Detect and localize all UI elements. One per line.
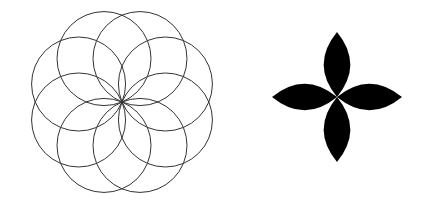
figure-canvas xyxy=(0,0,425,210)
rosette-circle xyxy=(118,37,212,131)
flower-petal xyxy=(337,84,402,111)
four-petal-flower xyxy=(272,32,402,162)
rosette-circle xyxy=(32,37,126,131)
flower-petal xyxy=(272,84,337,111)
circle-rosette xyxy=(32,12,213,193)
flower-petal xyxy=(324,32,351,97)
figure xyxy=(0,0,425,210)
rosette-circle xyxy=(57,12,151,106)
rosette-circle xyxy=(118,73,212,167)
rosette-circle xyxy=(32,73,126,167)
rosette-circle xyxy=(57,98,151,192)
rosette-circle xyxy=(93,98,187,192)
flower-petal xyxy=(324,97,351,162)
rosette-circle xyxy=(93,12,187,106)
